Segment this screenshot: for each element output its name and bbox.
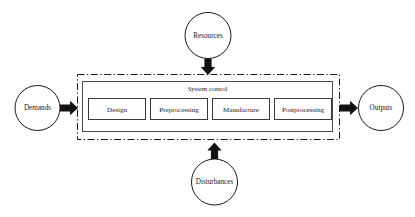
diagram-canvas: System control Design Preprocessing Manu…	[0, 0, 415, 217]
diagram-svg: System control Design Preprocessing Manu…	[0, 0, 415, 217]
stage-label-preprocessing: Preprocessing	[159, 106, 199, 114]
node-label-outputs: Outputs	[370, 104, 393, 112]
stage-label-manufacture: Manufacture	[223, 106, 259, 114]
arrow-demands-to-system	[60, 101, 78, 115]
stage-label-design: Design	[107, 106, 127, 114]
node-label-demands: Demands	[24, 104, 51, 112]
arrow-resources-to-system	[201, 59, 215, 76]
system-control-label: System control	[188, 85, 228, 92]
arrow-disturbances-to-system	[207, 143, 221, 160]
node-label-resources: Resources	[193, 32, 223, 40]
arrow-system-to-outputs	[340, 101, 358, 115]
node-label-disturbances: Disturbances	[196, 178, 234, 186]
stage-label-postprocessing: Postprocessing	[282, 106, 325, 114]
